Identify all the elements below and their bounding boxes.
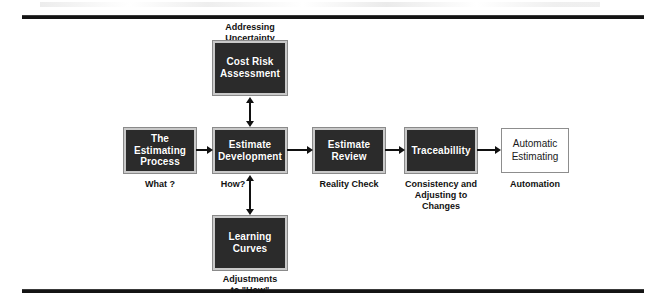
node-automatic-estimating-label: Automatic Estimating: [512, 138, 559, 163]
diagram-page: Addressing Uncertainty Cost Risk Assessm…: [0, 0, 666, 307]
node-estimate-review[interactable]: Estimate Review: [313, 128, 385, 173]
node-estimating-process[interactable]: The Estimating Process: [124, 128, 196, 173]
node-estimate-development[interactable]: Estimate Development: [213, 128, 287, 173]
node-automatic-estimating[interactable]: Automatic Estimating: [501, 128, 569, 173]
node-cost-risk-assessment-label: Cost Risk Assessment: [220, 56, 280, 79]
connector-process-to-development: [196, 143, 213, 157]
connector-learning-curves-to-development: [243, 175, 257, 215]
node-learning-curves-label: Learning Curves: [228, 231, 271, 254]
node-learning-curves[interactable]: Learning Curves: [213, 216, 287, 270]
connector-development-to-review: [287, 143, 313, 157]
caption-automatic-estimating: Automation: [485, 179, 585, 190]
connector-review-to-traceabillity: [385, 143, 405, 157]
node-estimate-development-label: Estimate Development: [218, 139, 282, 162]
caption-estimating-process: What ?: [110, 179, 210, 190]
caption-estimate-review: Reality Check: [299, 179, 399, 190]
node-estimate-review-label: Estimate Review: [328, 139, 371, 162]
node-traceabillity[interactable]: Traceabillity: [405, 128, 477, 173]
scan-artifact-strip: [40, 2, 600, 7]
page-rule-top: [22, 15, 644, 19]
connector-traceabillity-to-automatic: [477, 143, 501, 157]
node-cost-risk-assessment[interactable]: Cost Risk Assessment: [213, 41, 287, 95]
connector-cost-risk-to-development: [243, 97, 257, 127]
node-estimating-process-label: The Estimating Process: [134, 133, 186, 168]
page-rule-bottom: [22, 289, 644, 293]
node-traceabillity-label: Traceabillity: [411, 145, 470, 157]
caption-learning-curves: Adjustments to "How": [200, 274, 300, 296]
caption-traceabillity: Consistency and Adjusting to Changes: [391, 179, 491, 212]
